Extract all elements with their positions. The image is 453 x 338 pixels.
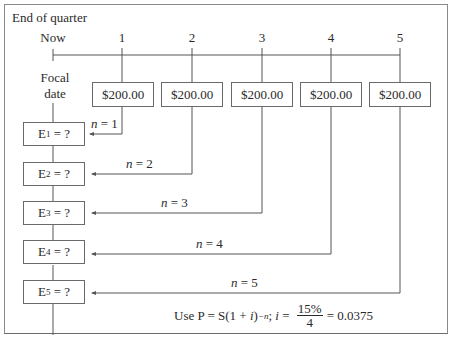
formula-exponent: −n [258, 311, 269, 321]
focal-line2: date [35, 86, 75, 102]
equivalent-box-2: E2 = ? [23, 162, 85, 186]
n-label-1: n = 1 [91, 117, 118, 131]
e-letter: E [38, 126, 46, 142]
e-letter: E [38, 284, 46, 300]
diagram-title: End of quarter [12, 11, 87, 25]
formula-prefix: Use P = S(1 + [174, 308, 250, 324]
payment-box-1: $200.00 [92, 82, 154, 107]
focal-line1: Focal [35, 70, 75, 86]
timeline-label-now: Now [40, 31, 65, 45]
fraction-denominator: 4 [307, 316, 314, 329]
timeline-label-3: 3 [259, 31, 266, 45]
payment-box-5: $200.00 [369, 82, 431, 107]
fraction-numerator: 15% [297, 302, 323, 316]
timeline-label-5: 5 [397, 31, 404, 45]
n-label-3: n = 3 [161, 196, 188, 210]
e-letter: E [38, 166, 46, 182]
equivalent-box-4: E4 = ? [23, 240, 85, 264]
timeline-label-2: 2 [189, 31, 196, 45]
arrowhead-icon [91, 172, 96, 176]
n-value: = 2 [133, 156, 153, 171]
arrow-n5 [92, 107, 400, 293]
n-value: = 5 [238, 275, 258, 290]
payment-box-3: $200.00 [231, 82, 293, 107]
formula-fraction: 15% 4 [297, 302, 323, 329]
e-rest: = ? [50, 284, 70, 300]
payment-box-4: $200.00 [300, 82, 362, 107]
formula-eq: = [279, 308, 293, 324]
e-rest: = ? [50, 244, 70, 260]
payment-box-2: $200.00 [161, 82, 223, 107]
n-label-5: n = 5 [231, 276, 258, 290]
formula-sep: ; [268, 308, 275, 324]
arrowhead-icon [91, 291, 96, 295]
e-rest: = ? [50, 126, 70, 142]
formula-result: = 0.0375 [327, 308, 373, 324]
arrow-n4 [92, 107, 331, 254]
equivalent-box-1: E1 = ? [23, 122, 85, 146]
equivalent-box-5: E5 = ? [23, 280, 85, 304]
n-value: = 3 [168, 195, 188, 210]
timeline-label-1: 1 [119, 31, 126, 45]
focal-date-label: Focal date [35, 70, 75, 102]
formula: Use P = S(1 + i)−n; i = 15% 4 = 0.0375 [174, 302, 373, 329]
e-rest: = ? [50, 166, 70, 182]
n-value: = 4 [203, 236, 223, 251]
n-label-2: n = 2 [126, 157, 153, 171]
timeline-label-4: 4 [328, 31, 335, 45]
e-letter: E [38, 205, 46, 221]
arrowheads [89, 132, 96, 295]
arrowhead-icon [89, 132, 94, 136]
e-rest: = ? [50, 205, 70, 221]
n-label-4: n = 4 [196, 237, 223, 251]
e-letter: E [38, 244, 46, 260]
equivalent-box-3: E3 = ? [23, 201, 85, 225]
n-value: = 1 [98, 116, 118, 131]
arrowhead-icon [91, 252, 96, 256]
arrowhead-icon [91, 211, 96, 215]
